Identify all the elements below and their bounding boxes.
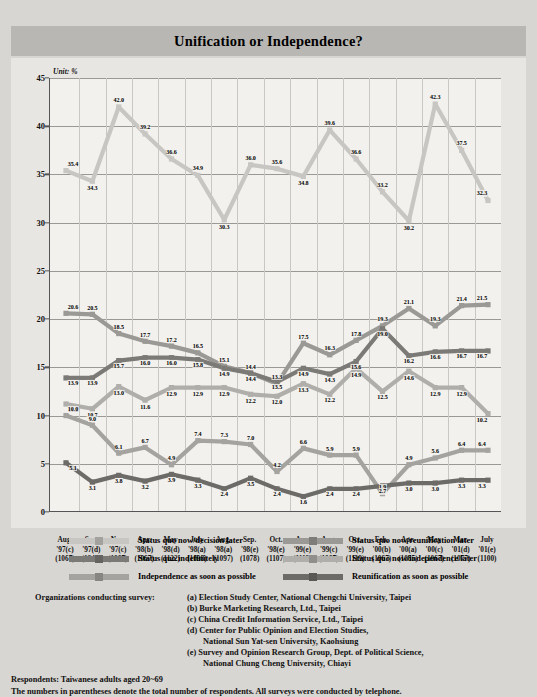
data-point-label: 9.0 — [88, 416, 96, 422]
data-point-label: 3.3 — [458, 483, 466, 489]
data-point-label: 15.1 — [219, 357, 230, 363]
data-point-label: 14.9 — [351, 372, 362, 378]
series-marker — [116, 331, 121, 336]
series-marker — [485, 478, 490, 483]
data-point-label: 12.9 — [192, 391, 203, 397]
series-marker — [301, 341, 306, 346]
legend-marker-icon — [95, 537, 103, 545]
data-point-label: 16.0 — [166, 360, 177, 366]
series-marker — [301, 446, 306, 451]
y-axis-tick-label: 30 — [37, 218, 46, 228]
data-point-label: 12.2 — [245, 398, 256, 404]
series-marker — [116, 384, 121, 389]
legend-item: Reunification as soon as possible — [283, 572, 468, 581]
organization-line: (a) Election Study Center, National Chen… — [187, 592, 526, 603]
series-marker — [485, 448, 490, 453]
chart-legend: Status quo now/decision laterStatus quo … — [11, 530, 526, 586]
data-point-label: 42.0 — [113, 97, 124, 103]
data-point-label: 19.0 — [377, 331, 388, 337]
data-point-label: 16.5 — [192, 343, 203, 349]
legend-label: Status quo now/reunification later — [352, 536, 474, 545]
data-point-label: 18.5 — [113, 324, 124, 330]
series-marker — [169, 462, 174, 467]
series-marker — [195, 385, 200, 390]
legend-swatch — [69, 538, 129, 544]
series-marker — [327, 352, 332, 357]
chart-title-bar: Unification or Independence? — [11, 26, 526, 56]
series-marker — [90, 312, 95, 317]
organization-line: (e) Survey and Opinion Research Group, D… — [187, 647, 526, 658]
data-point-label: 42.3 — [430, 94, 441, 100]
series-marker — [459, 303, 464, 308]
data-point-label: 17.8 — [351, 331, 362, 337]
data-point-label: 14.6 — [403, 375, 414, 381]
y-axis-tick-label: 10 — [37, 411, 46, 421]
data-point-label: 2.7 — [378, 488, 386, 494]
data-point-label: 16.6 — [430, 354, 441, 360]
y-axis-tick-label: 25 — [37, 266, 46, 276]
legend-item: Status quo now/decision later — [69, 536, 243, 545]
plot-panel: Unit: % 35.434.342.039.236.634.930.336.0… — [11, 58, 526, 528]
series-marker — [143, 398, 148, 403]
series-marker — [222, 439, 227, 444]
data-point-label: 3.9 — [167, 477, 175, 483]
data-point-label: 3.1 — [88, 485, 96, 491]
data-point-label: 12.5 — [377, 394, 388, 400]
series-marker — [143, 339, 148, 344]
y-axis-tick-mark — [45, 415, 49, 416]
legend-swatch — [283, 574, 343, 580]
y-axis-tick-mark — [45, 511, 49, 512]
data-point-label: 5.1 — [69, 465, 77, 471]
data-point-label: 17.5 — [298, 334, 309, 340]
data-point-label: 12.9 — [166, 391, 177, 397]
data-point-label: 20.5 — [87, 305, 98, 311]
organization-line: (b) Burke Marketing Research, Ltd., Taip… — [187, 603, 526, 614]
legend-item: Status quo now/independence later — [283, 554, 477, 563]
organizations-list: (a) Election Study Center, National Chen… — [187, 592, 526, 669]
y-axis-tick-mark — [45, 463, 49, 464]
y-axis-tick-mark — [45, 126, 49, 127]
data-point-label: 7.0 — [247, 435, 255, 441]
data-point-label: 16.3 — [324, 345, 335, 351]
series-marker — [301, 174, 306, 179]
data-point-label: 30.2 — [403, 225, 414, 231]
data-point-label: 36.6 — [166, 149, 177, 155]
data-point-label: 2.4 — [273, 491, 281, 497]
survey-note-line: The numbers in parentheses denote the to… — [11, 686, 526, 697]
series-marker — [459, 385, 464, 390]
series-marker — [248, 162, 253, 167]
series-marker — [143, 445, 148, 450]
series-marker — [485, 198, 490, 203]
legend-marker-icon — [95, 555, 103, 563]
series-marker — [485, 411, 490, 416]
data-point-label: 14.3 — [324, 377, 335, 383]
data-point-label: 15.6 — [351, 364, 362, 370]
legend-marker-icon — [309, 573, 317, 581]
data-point-label: 13.0 — [113, 390, 124, 396]
series-marker — [63, 413, 68, 418]
y-axis-tick-mark — [45, 174, 49, 175]
series-marker — [274, 166, 279, 171]
legend-item: Status quo now/reunification later — [283, 536, 474, 545]
series-marker — [248, 442, 253, 447]
organizations-block: Organizations conducting survey: (a) Ele… — [11, 592, 526, 669]
series-marker — [195, 438, 200, 443]
data-point-label: 12.0 — [271, 399, 282, 405]
data-point-label: 19.3 — [377, 316, 388, 322]
data-point-label: 14.4 — [245, 364, 256, 370]
series-marker — [63, 168, 68, 173]
data-point-label: 16.2 — [403, 358, 414, 364]
data-point-label: 3.8 — [115, 478, 123, 484]
data-point-label: 36.0 — [245, 155, 256, 161]
organization-line: (d) Center for Public Opinion and Electi… — [187, 625, 526, 636]
data-point-label: 13.3 — [298, 387, 309, 393]
data-point-label: 21.1 — [403, 299, 414, 305]
data-point-label: 12.9 — [219, 391, 230, 397]
series-marker — [459, 448, 464, 453]
series-line — [66, 305, 488, 384]
data-point-label: 15.8 — [192, 362, 203, 368]
data-point-label: 14.9 — [219, 371, 230, 377]
series-marker — [63, 460, 68, 465]
data-point-label: 17.7 — [140, 332, 151, 338]
